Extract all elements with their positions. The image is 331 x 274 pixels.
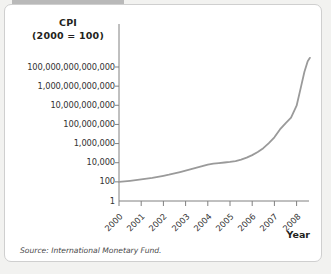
x-axis-tick-labels: 200020012002200320042005200620072008: [0, 0, 331, 274]
figure-root: CPI (2000 = 100) 110010,0001,000,000100,…: [0, 0, 331, 274]
source-text: International Monetary Fund.: [51, 246, 161, 255]
x-axis-title: Year: [286, 229, 310, 240]
source-note: Source: International Monetary Fund.: [20, 246, 162, 255]
source-label: Source:: [20, 246, 49, 255]
